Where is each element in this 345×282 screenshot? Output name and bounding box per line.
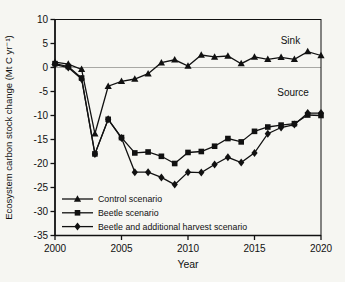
x-tick-label: 2015 [243,243,266,254]
square-marker [252,129,258,135]
square-marker [225,136,231,142]
square-marker [172,161,178,167]
y-axis-title: Ecosystem carbon stock change (Mt C yr⁻¹… [3,35,14,220]
square-marker [212,143,218,149]
y-tick-label: -30 [34,206,49,217]
legend-label: Control scenario [98,194,162,204]
square-marker [238,139,244,145]
legend-label: Beetle scenario [98,208,159,218]
square-marker [199,149,205,155]
y-tick-label: -25 [34,182,49,193]
y-tick-label: 5 [42,38,48,49]
y-tick-label: -20 [34,158,49,169]
sink-annotation: Sink [281,35,301,46]
square-marker [145,149,151,155]
square-marker [185,150,191,156]
x-axis-title: Year [177,258,199,270]
carbon-stock-change-figure: 1050-5-10-15-20-25-30-352000200520102015… [0,0,345,282]
carbon-stock-change-chart: 1050-5-10-15-20-25-30-352000200520102015… [0,0,345,282]
y-tick-label: -5 [39,86,48,97]
y-tick-label: -35 [34,230,49,241]
square-marker [159,154,165,160]
y-tick-label: -10 [34,110,49,121]
y-tick-label: -15 [34,134,49,145]
x-tick-label: 2005 [110,243,133,254]
square-marker [132,150,138,156]
y-tick-label: 0 [42,62,48,73]
legend-label: Beetle and additional harvest scenario [98,222,247,232]
square-marker [75,210,81,216]
x-tick-label: 2010 [177,243,200,254]
x-tick-label: 2000 [44,243,67,254]
square-marker [265,124,271,130]
source-annotation: Source [277,87,309,98]
x-tick-label: 2020 [310,243,333,254]
y-tick-label: 10 [37,14,49,25]
